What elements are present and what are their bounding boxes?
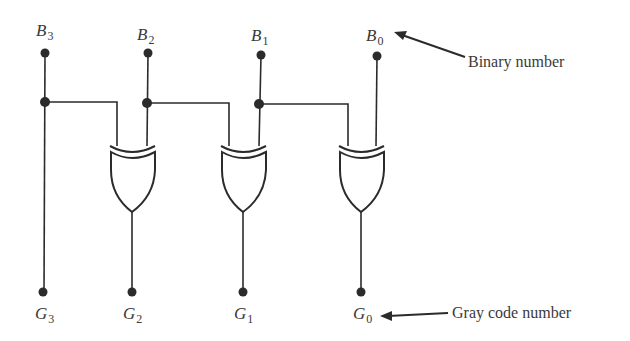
gray-code-number-label: Gray code number xyxy=(452,304,572,322)
label-b1: B1 xyxy=(251,26,268,48)
binary-number-annotation: Binary number xyxy=(394,31,565,71)
arrow-icon xyxy=(388,313,448,316)
gray-code-converter-diagram: B3 B2 B1 B0 G3 G2 G1 G0 Binary number Gr… xyxy=(0,0,630,341)
gray-code-annotation: Gray code number xyxy=(380,304,572,322)
terminal-b0 xyxy=(373,52,382,61)
wire-b1 xyxy=(259,55,348,146)
xor-gate-2 xyxy=(221,146,266,212)
terminal-g2 xyxy=(128,288,137,297)
label-g0: G0 xyxy=(353,304,372,326)
arrowhead-icon xyxy=(380,311,392,321)
label-g3: G3 xyxy=(35,304,54,326)
terminal-b1 xyxy=(257,51,266,60)
label-b2: B2 xyxy=(137,25,154,47)
terminal-b3 xyxy=(41,49,50,58)
label-g2: G2 xyxy=(123,304,142,326)
label-g1: G1 xyxy=(234,304,253,326)
binary-number-label: Binary number xyxy=(468,53,565,71)
label-b0: B0 xyxy=(366,26,383,48)
junction-b3 xyxy=(40,97,50,107)
junction-b2 xyxy=(142,98,152,108)
terminal-g1 xyxy=(239,288,248,297)
junction-b1 xyxy=(254,99,264,109)
wire-b0 xyxy=(376,56,377,146)
label-b3: B3 xyxy=(36,21,53,43)
terminal-g3 xyxy=(39,288,48,297)
wire-b2 xyxy=(147,53,229,146)
xor-gate-1 xyxy=(110,146,155,212)
wire-b3 xyxy=(44,53,117,292)
terminal-g0 xyxy=(357,288,366,297)
terminal-b2 xyxy=(144,49,153,58)
xor-gate-3 xyxy=(339,146,384,212)
arrow-icon xyxy=(402,35,465,57)
